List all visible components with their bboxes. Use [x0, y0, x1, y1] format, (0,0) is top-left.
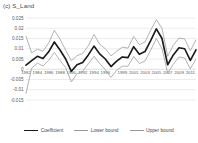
legend-item-coefficient[interactable]: Coefficient: [24, 128, 63, 133]
legend-item-label: Upper bound: [146, 128, 174, 133]
legend-item-label: Lower bound: [91, 128, 119, 133]
x-tick-label: 2001: [129, 70, 139, 75]
plot-area: 0.0250.020.0150.010.0050-0.005-0.01-0.01…: [0, 14, 198, 118]
chart-figure: (c) S_Land 0.0250.020.0150.010.0050-0.00…: [0, 0, 198, 143]
legend-line-swatch: [74, 130, 88, 131]
y-tick-label: 0.01: [15, 46, 24, 51]
data-series-group: [26, 20, 196, 94]
legend-line-swatch: [24, 130, 38, 131]
x-tick-label: 1986: [44, 70, 54, 75]
chart-svg: 0.0250.020.0150.010.0050-0.005-0.01-0.01…: [0, 14, 198, 118]
y-tick-label: -0.005: [10, 77, 23, 82]
x-tick-label: 2005: [152, 70, 162, 75]
y-axis-tick-labels: 0.0250.020.0150.010.0050-0.005-0.01-0.01…: [10, 16, 23, 103]
chart-title: (c) S_Land: [3, 2, 34, 9]
y-tick-label: -0.015: [10, 98, 23, 103]
x-tick-label: 2009: [174, 70, 184, 75]
x-tick-label: 1984: [33, 70, 43, 75]
legend-item-upper-bound[interactable]: Upper bound: [130, 128, 174, 133]
y-tick-label: 0.015: [12, 36, 24, 41]
x-tick-label: 1988: [55, 70, 65, 75]
y-tick-label: -0.01: [13, 87, 24, 92]
x-axis-tick-labels: 1982198419861988199019921994199619992001…: [21, 70, 195, 75]
series-line-upper-bound: [26, 20, 196, 61]
x-tick-label: 1994: [89, 70, 99, 75]
y-tick-label: 0.005: [12, 57, 24, 62]
x-tick-label: 2003: [140, 70, 150, 75]
x-tick-label: 1999: [118, 70, 128, 75]
y-tick-label: 0.02: [15, 26, 24, 31]
legend-line-swatch: [130, 130, 144, 131]
legend-item-lower-bound[interactable]: Lower bound: [74, 128, 118, 133]
y-tick-label: 0.025: [12, 16, 24, 21]
x-tick-label: 2011: [186, 70, 196, 75]
chart-legend: CoefficientLower boundUpper bound: [0, 123, 198, 137]
legend-item-label: Coefficient: [41, 128, 64, 133]
